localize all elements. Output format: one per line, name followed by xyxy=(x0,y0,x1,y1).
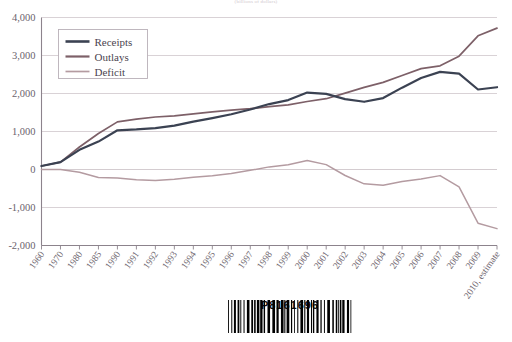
x-axis-tick-label: 1994 xyxy=(179,249,198,271)
x-axis-tick-label: 1985 xyxy=(84,249,103,271)
x-axis-tick-label: 2001 xyxy=(312,249,331,271)
barcode-bar xyxy=(313,300,314,333)
x-axis-tick-label: 2000 xyxy=(293,249,312,271)
barcode-bar xyxy=(281,300,284,333)
legend-label-deficit: Deficit xyxy=(95,66,126,78)
barcode-bar xyxy=(228,300,229,333)
x-axis-tick-label: 2007 xyxy=(426,249,445,271)
chart-container: (billions of dollars) 4,0003,0002,0001,0… xyxy=(0,0,512,342)
y-axis-tick-label: -2,000 xyxy=(8,240,35,251)
barcode-block: P8161696 xyxy=(226,300,354,342)
barcode-bar xyxy=(240,300,241,333)
barcode-bar xyxy=(291,300,292,333)
barcode-bar xyxy=(267,300,270,333)
series-line-receipts xyxy=(42,72,498,166)
series-line-deficit xyxy=(42,161,498,229)
barcode-bar xyxy=(272,300,275,333)
barcode-bar xyxy=(287,300,290,333)
barcode-bar xyxy=(264,300,265,333)
x-axis-tick-label: 2005 xyxy=(388,249,407,271)
x-axis-tick-label: 1998 xyxy=(255,249,274,271)
x-axis-tick-label: 2010, estimate xyxy=(462,249,502,300)
x-axis-tick-label: 2003 xyxy=(350,249,369,271)
barcode-bar xyxy=(260,300,262,333)
y-axis-tick-label: 0 xyxy=(30,164,35,175)
barcode-bar xyxy=(251,300,253,333)
barcode-bar xyxy=(247,300,250,333)
x-axis-tick-label: 1993 xyxy=(160,249,179,271)
barcode-bar xyxy=(238,300,240,333)
barcode-bar xyxy=(316,300,318,333)
x-axis-tick-label: 1997 xyxy=(236,249,255,271)
barcode-bar xyxy=(307,300,309,333)
barcode-bar xyxy=(342,300,344,333)
barcode-bar xyxy=(336,300,338,333)
barcode-bar xyxy=(276,300,278,333)
y-axis-tick-label: -1,000 xyxy=(8,202,35,213)
x-axis-tick-label: 1995 xyxy=(198,249,217,271)
barcode-bar xyxy=(284,300,285,333)
y-axis-tick-label: 1,000 xyxy=(12,126,36,137)
x-axis-tick-label: 1990 xyxy=(103,249,122,271)
x-axis-tick-label: 1980 xyxy=(65,249,84,271)
barcode-bar xyxy=(327,300,330,333)
x-axis-tick-label: 2002 xyxy=(331,249,350,271)
barcode-bar xyxy=(332,300,334,333)
barcode-bar xyxy=(350,300,351,333)
barcode-bar xyxy=(347,300,349,333)
x-axis-tick-label: 1970 xyxy=(46,249,65,271)
x-axis-tick-label: 2006 xyxy=(407,249,426,271)
x-axis-tick-label: 1991 xyxy=(122,249,141,271)
legend-label-receipts: Receipts xyxy=(95,36,133,48)
y-axis-tick-label: 2,000 xyxy=(12,88,36,99)
x-axis-tick-label: 2004 xyxy=(369,249,388,271)
x-axis-tick-label: 1960 xyxy=(27,249,46,271)
x-axis-tick-label: 1996 xyxy=(217,249,236,271)
barcode-bar xyxy=(294,300,295,333)
x-axis-tick-label: 1992 xyxy=(141,249,160,271)
line-chart-plot: 4,0003,0002,0001,0000-1,000-2,0001960197… xyxy=(0,0,512,300)
barcode-bar xyxy=(338,300,339,333)
barcode-bar xyxy=(254,300,256,333)
x-axis-tick-label: 1999 xyxy=(274,249,293,271)
barcode-bar xyxy=(244,300,245,333)
y-axis-tick-label: 3,000 xyxy=(12,50,36,61)
barcode-bar xyxy=(231,300,232,333)
barcode-bar xyxy=(234,300,236,333)
barcode-bar xyxy=(297,300,298,333)
legend-label-outlays: Outlays xyxy=(95,51,129,63)
x-axis-tick-label: 2008 xyxy=(445,249,464,271)
barcode-image xyxy=(226,300,354,333)
barcode-bar xyxy=(304,300,305,333)
barcode-bar xyxy=(320,300,321,333)
barcode-bar xyxy=(340,300,342,333)
barcode-bar xyxy=(311,300,312,333)
barcode-bar xyxy=(300,300,303,333)
barcode-bar xyxy=(257,300,260,333)
barcode-bar xyxy=(324,300,325,333)
y-axis-tick-label: 4,000 xyxy=(12,12,36,23)
